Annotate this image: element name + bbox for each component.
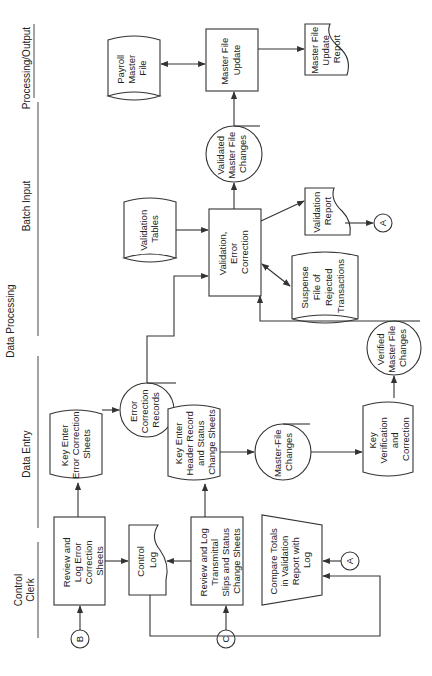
- lane-header-processing-output: Processing/Output: [21, 27, 32, 109]
- edge-records-to-validation: [147, 276, 208, 383]
- svg-text:Validated Master File: Validated Master File Changes: [215, 129, 248, 179]
- svg-text:A: A: [377, 219, 388, 226]
- svg-text:Review and Log Transmi: Review and Log Transmittal Slips and Sta…: [198, 525, 242, 596]
- svg-text:A: A: [344, 557, 355, 564]
- node-validation-report: Validation Report: [305, 188, 350, 235]
- node-review-log-transmittal: Review and Log Transmittal Slips and Sta…: [191, 517, 243, 605]
- node-payroll-master-file: Payroll Master File: [108, 36, 160, 100]
- node-master-file-update-report: Master File Update Report: [305, 24, 348, 75]
- connector-a-out: A: [374, 214, 392, 232]
- node-review-log-error: Review and Log Error Correction Sheets: [54, 517, 105, 605]
- lane-header-batch-input: Batch Input: [21, 180, 32, 231]
- lane-group-header: Data Processing: [5, 284, 16, 357]
- node-validated-master-file-changes: Validated Master File Changes: [206, 126, 262, 182]
- node-suspense-file: Suspense File of Rejected Transactions: [292, 252, 358, 323]
- lane-header-control-clerk-1: Control: [13, 574, 24, 606]
- lane-header-control-clerk-2: Clerk: [25, 577, 36, 601]
- edge-validation-suspense: [262, 264, 290, 286]
- node-compare-totals: Compare Totals in Validation Report with…: [262, 515, 322, 605]
- node-control-log: Control Log: [129, 525, 167, 595]
- connector-c: C: [217, 630, 235, 648]
- svg-text:Master-File Changes: Master-File Changes: [272, 427, 294, 477]
- lane-header-data-entry: Data Entry: [21, 430, 32, 477]
- node-master-file-update: Master File Update: [206, 29, 258, 91]
- svg-text:Suspense File of: Suspense File of Rejected Transactions: [299, 259, 346, 313]
- node-key-enter-header: Key Enter Header Record and Status Chang…: [168, 405, 220, 480]
- connector-a-in: A: [341, 552, 359, 570]
- payroll-flowchart: Data Processing Control Clerk Data Entry…: [0, 0, 432, 676]
- connector-b: B: [71, 630, 89, 648]
- node-validation-tables: Validation Tables: [124, 198, 176, 262]
- node-master-file-changes: Master-File Changes: [255, 424, 311, 480]
- edge-validation-to-report: [261, 201, 304, 221]
- node-key-verification: Key Verification and Correction: [363, 402, 413, 476]
- node-key-enter-error: Key Enter Error Correction Sheets: [50, 409, 102, 479]
- svg-text:B: B: [74, 636, 85, 642]
- node-verified-master-file-changes: Verified Master File Changes: [367, 321, 421, 375]
- lane-headers: Data Processing Control Clerk Data Entry…: [5, 24, 38, 638]
- node-validation-error-correction: Validation, Error Correction: [209, 209, 261, 296]
